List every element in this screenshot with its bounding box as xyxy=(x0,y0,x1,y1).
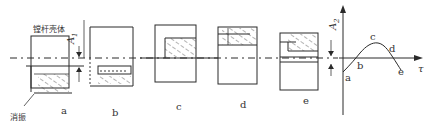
curve-point-d: d xyxy=(389,43,396,54)
x-axis-arrow-icon xyxy=(414,55,423,61)
curve-point-a: a xyxy=(345,72,351,83)
svg-text:A: A xyxy=(65,37,76,45)
hatched-mass-a xyxy=(38,74,69,92)
arrow-down-icon xyxy=(328,51,334,56)
y-axis-arrow-icon xyxy=(340,5,346,13)
displacement-graph xyxy=(339,5,423,115)
frame-d xyxy=(218,27,257,84)
housing-label: 镗杆壳体 xyxy=(33,24,65,34)
svg-text:A: A xyxy=(327,23,338,31)
svg-text:1: 1 xyxy=(71,33,79,37)
tau-label: τ xyxy=(418,63,424,74)
mass-b xyxy=(98,66,131,74)
frame-label-b: b xyxy=(112,107,118,118)
frame-b xyxy=(90,27,133,86)
a2-label: A 2 xyxy=(327,18,341,31)
arrow-up-icon xyxy=(328,64,334,69)
frame-label-c: c xyxy=(176,101,182,112)
frame-label-a: a xyxy=(61,105,67,116)
hatched-mass-c xyxy=(165,38,196,57)
curve-point-e: e xyxy=(398,66,404,77)
frame-e xyxy=(280,33,334,90)
curve-point-b: b xyxy=(357,60,363,71)
curve-point-c: c xyxy=(370,31,376,42)
frame-c xyxy=(140,25,218,82)
arrow-up-icon xyxy=(76,67,82,72)
hatched-region-b xyxy=(98,76,131,84)
damper-leader-line xyxy=(24,94,34,106)
svg-text:2: 2 xyxy=(333,18,341,24)
frame-label-e: e xyxy=(303,95,309,106)
arrow-down-icon xyxy=(76,52,82,57)
hatched-mass-d xyxy=(222,28,256,45)
a1-label: A 1 xyxy=(65,33,79,45)
damper-label: 消振 xyxy=(10,112,26,122)
frame-label-d: d xyxy=(240,99,247,110)
vibration-damper-diagram: 镗杆壳体 消振 A 1 a b c d xyxy=(0,0,432,126)
